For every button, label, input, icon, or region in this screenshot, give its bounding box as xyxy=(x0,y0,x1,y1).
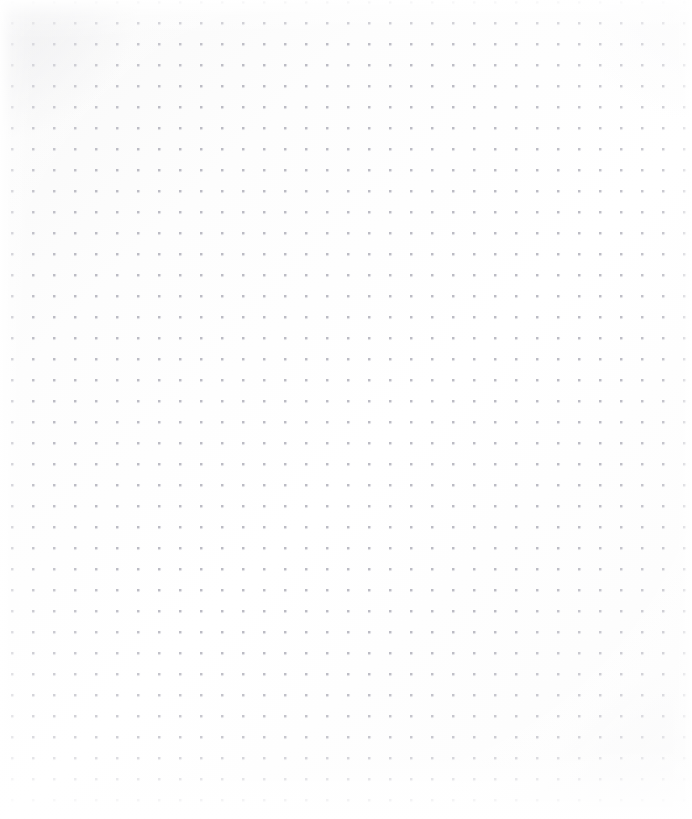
dot-grid-softening-layer xyxy=(0,0,692,819)
dot-grid-canvas[interactable]: Dot Grid Canvas xyxy=(0,0,692,819)
